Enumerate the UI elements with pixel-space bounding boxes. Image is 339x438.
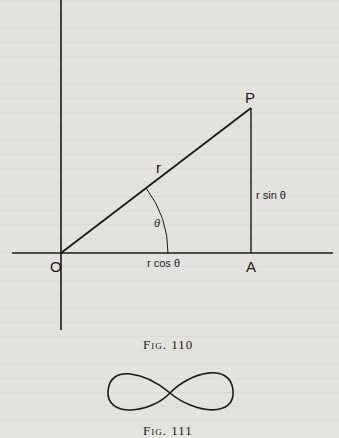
figure-111-caption: Fig. 111 — [143, 424, 193, 437]
x-component-label: r cos θ — [147, 258, 180, 269]
angle-label: θ — [154, 218, 160, 229]
point-p-label: P — [245, 90, 255, 105]
origin-label: O — [50, 259, 62, 274]
point-a-label: A — [246, 259, 256, 274]
y-component-label: r sin θ — [256, 190, 286, 201]
radius-line-op — [61, 108, 251, 253]
figure-110-caption: Fig. 110 — [143, 338, 193, 351]
radius-label: r — [156, 160, 161, 175]
lemniscate-curve — [108, 373, 233, 410]
